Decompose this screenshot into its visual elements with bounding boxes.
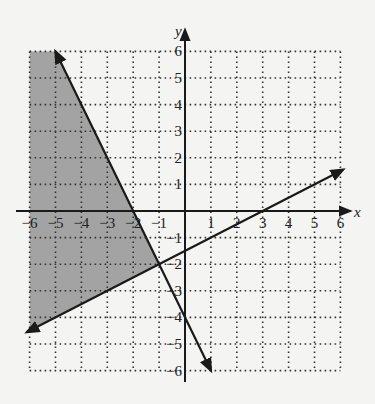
y-tick-label: 5 — [175, 70, 183, 86]
x-tick-label: −3 — [99, 215, 115, 231]
x-tick-label: 4 — [285, 215, 293, 231]
shaded-region — [30, 51, 160, 330]
y-tick-label: 1 — [175, 176, 183, 192]
y-axis-label: y — [173, 23, 182, 39]
y-tick-label: −5 — [166, 336, 182, 352]
x-axis-label: x — [353, 204, 361, 220]
x-tick-label: −5 — [48, 215, 64, 231]
y-tick-label: −1 — [166, 230, 182, 246]
y-tick-label: 6 — [175, 43, 183, 59]
y-tick-label: −4 — [166, 309, 182, 325]
x-tick-label: −6 — [22, 215, 38, 231]
x-tick-label: −1 — [151, 215, 167, 231]
y-tick-label: −6 — [166, 363, 182, 379]
x-tick-label: 1 — [207, 215, 215, 231]
coordinate-plane: xy−6−5−4−3−2−1123456654321−1−2−3−4−5−6 — [0, 0, 375, 404]
x-tick-label: 3 — [259, 215, 267, 231]
x-tick-label: 6 — [337, 215, 345, 231]
y-tick-label: 3 — [175, 123, 183, 139]
y-tick-label: 2 — [175, 150, 183, 166]
x-tick-label: −4 — [73, 215, 89, 231]
x-tick-label: 5 — [311, 215, 319, 231]
y-tick-label: 4 — [175, 97, 183, 113]
